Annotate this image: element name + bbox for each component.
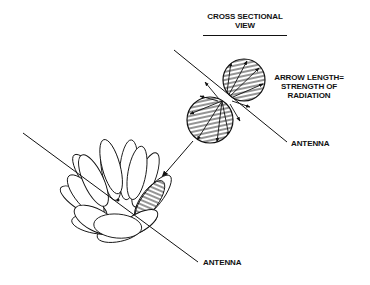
antenna-label-lower: ANTENNA: [203, 258, 241, 267]
title-line-2: VIEW: [200, 21, 290, 30]
antenna-label-upper: ANTENNA: [291, 139, 329, 148]
arrow-length-legend: ARROW LENGTH= STRENGTH OF RADIATION: [272, 73, 346, 100]
legend-line-2: STRENGTH OF: [272, 82, 346, 91]
legend-line-1: ARROW LENGTH=: [272, 73, 346, 82]
antenna-radiation-diagram: CROSS SECTIONAL VIEW ARROW LENGTH= STREN…: [0, 0, 370, 285]
title-underline: [203, 35, 287, 36]
cross-section-title: CROSS SECTIONAL VIEW: [200, 12, 290, 30]
cross-section: [174, 50, 287, 143]
pointer-arrow: [162, 141, 193, 177]
lower-lobe: [187, 97, 233, 143]
toroid-pattern: [56, 137, 177, 246]
legend-line-3: RADIATION: [272, 91, 346, 100]
title-line-1: CROSS SECTIONAL: [200, 12, 290, 21]
